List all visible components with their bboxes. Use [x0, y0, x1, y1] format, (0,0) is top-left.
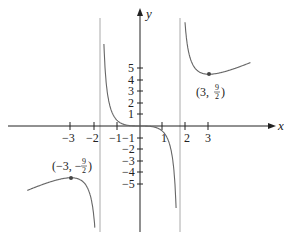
svg-text:2: 2: [215, 92, 219, 101]
x-axis-arrow-icon: [268, 123, 276, 129]
svg-text:): ): [221, 85, 225, 99]
x-tick-labels: −3 −2 −1 1 2 3: [62, 131, 211, 145]
local-min-label: (3, 9 2 ): [196, 83, 225, 101]
svg-text:3: 3: [205, 131, 211, 145]
y-axis-label: y: [144, 6, 152, 21]
svg-text:9: 9: [215, 83, 219, 92]
local-max-point: [69, 176, 73, 180]
curve-right-branch: [185, 22, 250, 74]
svg-text:9: 9: [82, 157, 86, 166]
svg-text:(3,: (3,: [196, 85, 209, 99]
local-min-point: [207, 72, 211, 76]
local-max-label: (−3, − 9 2 ): [52, 157, 92, 175]
y-axis-arrow-icon: [137, 8, 143, 16]
curve-left-branch: [27, 178, 95, 228]
svg-text:2: 2: [184, 131, 190, 145]
svg-text:−5: −5: [122, 177, 135, 191]
svg-text:2: 2: [82, 166, 86, 175]
svg-text:): ): [88, 159, 92, 173]
svg-text:−2: −2: [86, 131, 99, 145]
svg-text:−1: −1: [109, 131, 122, 145]
function-graph: x y −3 −2 −1 1 2 3 5 4 3 2 1 −1: [0, 0, 284, 244]
svg-text:−3: −3: [62, 131, 75, 145]
svg-text:1: 1: [128, 107, 134, 121]
x-axis-label: x: [277, 118, 284, 133]
svg-text:(−3, −: (−3, −: [52, 159, 82, 173]
